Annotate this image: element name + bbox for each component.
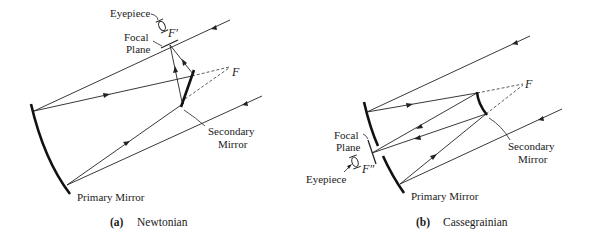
focal-plane-pointer-b bbox=[363, 134, 368, 139]
f-double-prime-label: F″ bbox=[361, 162, 375, 176]
arrow-icon bbox=[173, 66, 178, 73]
secondary-label-b1: Secondary bbox=[508, 140, 555, 152]
caption-title-a: Newtonian bbox=[137, 216, 188, 228]
focus-label-b: F bbox=[524, 77, 533, 91]
telescope-diagram: Eyepiece Focal Plane F′ F Secondary Mirr… bbox=[0, 0, 591, 241]
eyepiece-label-a: Eyepiece bbox=[110, 7, 150, 19]
primary-mirror-b-upper bbox=[364, 102, 378, 146]
focal-plane-label-a2: Plane bbox=[126, 43, 151, 55]
arrow-icon bbox=[103, 93, 110, 98]
arrow-icon bbox=[406, 103, 413, 108]
incoming-ray-top-b bbox=[367, 36, 530, 112]
secondary-mirror-a bbox=[181, 70, 194, 107]
arrow-icon bbox=[538, 116, 544, 121]
arrow-icon bbox=[211, 25, 217, 30]
caption-title-b: Cassegrainian bbox=[443, 216, 508, 229]
primary-mirror-a bbox=[31, 104, 70, 194]
secondary-mirror-b bbox=[477, 92, 487, 115]
focal-plane-pointer-a bbox=[153, 41, 162, 46]
secondary-pointer-a bbox=[184, 110, 205, 126]
focal-plane-a bbox=[161, 40, 178, 48]
primary-label-b: Primary Mirror bbox=[411, 190, 479, 202]
focal-plane-label-b2: Plane bbox=[336, 141, 361, 153]
focus-label-a: F bbox=[231, 65, 240, 79]
eyepiece-icon bbox=[349, 155, 361, 169]
secondary-label-a2: Mirror bbox=[218, 138, 248, 150]
focal-plane-label-a1: Focal bbox=[124, 31, 148, 43]
secondary-pointer-b bbox=[489, 118, 510, 140]
secondary-label-b2: Mirror bbox=[518, 153, 548, 165]
eyepiece-label-b: Eyepiece bbox=[306, 173, 346, 185]
secondary-label-a1: Secondary bbox=[208, 125, 255, 137]
reflected-ray-top-a bbox=[34, 76, 192, 111]
focal-plane-label-b1: Focal bbox=[334, 129, 358, 141]
reflected-ray-bottom-b bbox=[400, 114, 486, 184]
caption-letter-a: (a) bbox=[110, 216, 124, 229]
dashed-to-focus-b1 bbox=[477, 84, 523, 93]
primary-label-a: Primary Mirror bbox=[77, 191, 145, 203]
primary-mirror-b-lower bbox=[383, 156, 404, 193]
caption-letter-b: (b) bbox=[416, 216, 430, 229]
panel-newtonian: Eyepiece Focal Plane F′ F Secondary Mirr… bbox=[31, 7, 262, 229]
dashed-to-focus-b2 bbox=[486, 85, 523, 114]
to-eyepiece-ray-a2 bbox=[170, 45, 182, 102]
eyepiece-icon bbox=[156, 19, 168, 33]
return-ray-b2 bbox=[372, 114, 486, 153]
eyepiece-pointer-a bbox=[151, 14, 158, 20]
arrow-icon bbox=[414, 135, 421, 140]
panel-cassegrainian: Focal Plane F″ Eyepiece F Secondary Mirr… bbox=[306, 36, 562, 229]
arrow-icon bbox=[242, 101, 248, 106]
f-prime-label: F′ bbox=[167, 26, 178, 40]
